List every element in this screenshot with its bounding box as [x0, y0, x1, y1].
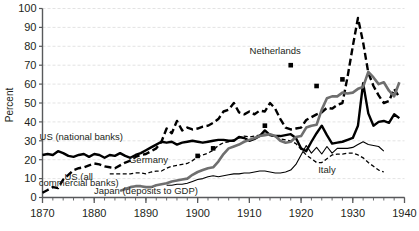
x-tick-label-1870: 1870 [30, 207, 54, 219]
y-tick-label-50: 50 [24, 97, 36, 109]
bank-deposits-to-gdp-line-chart: 18701880189019001910192019301940 0102030… [0, 0, 419, 231]
series-label-us-national-banks: US (national banks) [40, 131, 123, 142]
y-tick-label-70: 70 [24, 59, 36, 71]
netherlands-marker-1903 [211, 146, 216, 151]
y-axis-title: Percent [4, 88, 15, 123]
x-tick-label-1940: 1940 [392, 207, 416, 219]
netherlands-marker-1923 [314, 84, 319, 89]
y-tick-label-80: 80 [24, 40, 36, 52]
y-tick-label-30: 30 [24, 135, 36, 147]
y-tick-label-100: 100 [18, 2, 36, 14]
series-label-netherlands: Netherlands [250, 45, 301, 56]
netherlands-marker-1900 [195, 154, 200, 159]
series-label-italy: Italy [318, 164, 336, 175]
x-tick-label-1920: 1920 [289, 207, 313, 219]
y-tick-label-40: 40 [24, 116, 36, 128]
chart-background [0, 0, 419, 231]
y-tick-label-90: 90 [24, 21, 36, 33]
x-tick-label-1910: 1910 [237, 207, 261, 219]
x-tick-label-1930: 1930 [341, 207, 365, 219]
netherlands-marker-1918 [288, 63, 293, 68]
x-tick-label-1890: 1890 [134, 207, 158, 219]
x-tick-label-1900: 1900 [185, 207, 209, 219]
y-tick-label-20: 20 [24, 154, 36, 166]
netherlands-marker-1913 [263, 123, 268, 128]
y-tick-label-0: 0 [30, 191, 36, 203]
series-label-japan-deposits-to-gdp: Japan (deposits to GDP) [94, 185, 198, 196]
x-tick-label-1880: 1880 [82, 207, 106, 219]
series-label-germany: Germany [129, 154, 168, 165]
netherlands-marker-1928 [340, 77, 345, 82]
y-tick-label-60: 60 [24, 78, 36, 90]
chart-container: 18701880189019001910192019301940 0102030… [0, 0, 419, 231]
y-tick-label-10: 10 [24, 172, 36, 184]
